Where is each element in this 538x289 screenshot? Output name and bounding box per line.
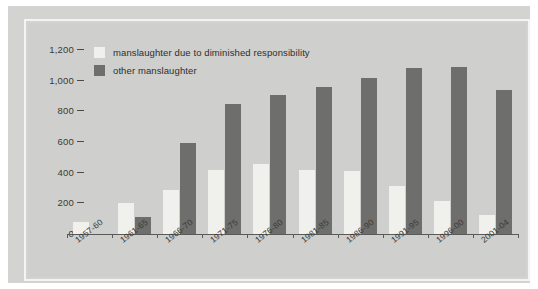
bar-other-manslaughter (270, 95, 286, 234)
legend-swatch-icon (94, 65, 105, 76)
bar-group (428, 50, 473, 234)
bar-other-manslaughter (406, 68, 422, 234)
bar-other-manslaughter (225, 104, 241, 234)
bar-diminished-responsibility (299, 170, 315, 234)
plot-area: 02004006008001,0001,200 1957-601961-6519… (28, 23, 526, 277)
bar-diminished-responsibility (253, 164, 269, 234)
x-axis-tick-mark (202, 234, 203, 238)
x-axis-tick-mark (473, 234, 474, 238)
chart-legend: manslaughter due to diminished responsib… (94, 47, 424, 83)
legend-item: other manslaughter (94, 65, 424, 76)
bar-diminished-responsibility (208, 170, 224, 234)
x-axis-tick-mark (157, 234, 158, 238)
x-axis-tick-mark (293, 234, 294, 238)
figure-frame: 02004006008001,0001,200 1957-601961-6519… (8, 6, 530, 283)
x-axis-tick-mark (338, 234, 339, 238)
x-axis-tick-mark (112, 234, 113, 238)
x-axis-tick-mark (518, 234, 519, 238)
legend-swatch-icon (94, 47, 105, 58)
x-axis-tick-mark (67, 234, 68, 238)
legend-item: manslaughter due to diminished responsib… (94, 47, 424, 58)
bar-group (473, 50, 518, 234)
x-axis-tick-mark (383, 234, 384, 238)
bar-other-manslaughter (496, 90, 512, 234)
x-axis: 1957-601961-651966-701971-751976-801981-… (28, 237, 526, 277)
legend-label: manslaughter due to diminished responsib… (113, 47, 310, 58)
bar-other-manslaughter (451, 67, 467, 234)
chart-figure: 02004006008001,0001,200 1957-601961-6519… (0, 0, 538, 289)
bar-diminished-responsibility (344, 171, 360, 234)
x-axis-tick-mark (247, 234, 248, 238)
bar-other-manslaughter (316, 87, 332, 234)
x-axis-tick-mark (428, 234, 429, 238)
legend-label: other manslaughter (113, 65, 197, 76)
bar-other-manslaughter (361, 78, 377, 234)
